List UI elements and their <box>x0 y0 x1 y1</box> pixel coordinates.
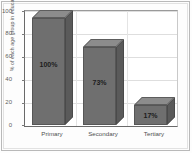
category-separator-2 <box>127 11 128 126</box>
plot-area: 100% 73% 17% <box>24 10 178 127</box>
bar-tertiary-value: 17% <box>134 112 167 120</box>
bar-secondary[interactable]: 73% <box>83 39 116 125</box>
y-tick-label-0: 0 <box>0 122 12 128</box>
y-tick-label-80: 80 <box>0 30 12 36</box>
y-tick-label-60: 60 <box>0 53 12 59</box>
y-tick-label-20: 20 <box>0 99 12 105</box>
y-tickmark-60 <box>22 57 25 58</box>
chart-screenshot: % of each age group in education 100 80 … <box>0 0 192 153</box>
bar-primary-value: 100% <box>32 61 65 69</box>
y-tickmark-0 <box>22 125 25 126</box>
y-tickmark-80 <box>22 34 25 35</box>
y-tickmark-20 <box>22 103 25 104</box>
bar-primary-front <box>32 18 65 125</box>
y-tick-text: 100 <box>2 8 12 14</box>
y-tick-label-100: 100 <box>0 8 12 14</box>
y-tick-text: 40 <box>5 76 12 82</box>
y-tick-text: 80 <box>5 30 12 36</box>
bar-tertiary[interactable]: 17% <box>134 97 167 125</box>
y-tick-text: 0 <box>9 122 12 128</box>
bar-secondary-value: 73% <box>83 79 116 87</box>
bar-secondary-side <box>116 39 124 125</box>
y-tick-text: 20 <box>5 99 12 105</box>
bar-primary[interactable]: 100% <box>32 10 65 125</box>
category-separator-1 <box>76 11 77 126</box>
bar-primary-side <box>65 10 73 125</box>
x-tick-label-tertiary: Tertiary <box>128 130 180 138</box>
y-tickmark-40 <box>22 80 25 81</box>
y-tickmark-100 <box>22 11 25 12</box>
x-tick-label-secondary: Secondary <box>77 130 129 138</box>
x-tick-label-primary: Primary <box>26 130 78 138</box>
y-tick-text: 60 <box>5 53 12 59</box>
y-tick-label-40: 40 <box>0 76 12 82</box>
